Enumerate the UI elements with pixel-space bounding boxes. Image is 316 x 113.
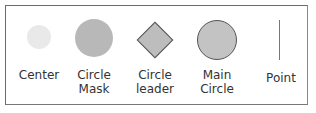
center-icon <box>27 25 51 49</box>
main-circle-label: Main Circle <box>200 68 234 96</box>
center-label: Center <box>19 68 59 82</box>
point-label: Point <box>266 71 296 85</box>
circle-mask-icon <box>75 19 113 57</box>
main-circle-icon <box>197 20 237 60</box>
circle-mask-label: Circle Mask <box>77 68 111 96</box>
circle-leader-label: Circle leader <box>136 68 174 96</box>
point-icon <box>279 20 280 60</box>
